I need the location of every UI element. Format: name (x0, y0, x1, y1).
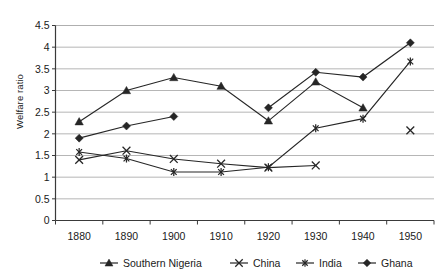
x-tick-label: 1930 (304, 230, 328, 242)
x-tick-label: 1880 (67, 230, 91, 242)
data-point-marker (359, 73, 367, 81)
y-tick-label: 1 (44, 171, 50, 183)
y-tick-label: 4.5 (35, 19, 50, 31)
data-point-marker (75, 134, 83, 142)
y-tick-label: 3 (44, 84, 50, 96)
y-axis-ticks-group: 00.511.522.533.544.5 (35, 19, 56, 226)
data-point-marker (122, 122, 130, 130)
legend-item-india: India (296, 257, 342, 269)
data-point-marker (406, 39, 414, 47)
y-tick-label: 3.5 (35, 63, 50, 75)
y-tick-label: 4 (44, 41, 50, 53)
gridlines-group (56, 26, 435, 199)
x-tick-label: 1910 (209, 230, 233, 242)
y-tick-label: 1.5 (35, 149, 50, 161)
legend-item-ghana: Ghana (358, 257, 413, 269)
y-tick-label: 2.5 (35, 106, 50, 118)
legend-label: China (253, 257, 281, 269)
data-point-marker (359, 104, 367, 111)
data-point-marker (170, 73, 178, 80)
plot-axes (56, 26, 435, 221)
x-tick-label: 1900 (162, 230, 186, 242)
data-point-marker (170, 113, 178, 121)
x-axis-ticks-group: 18801890190019101920193019401950 (56, 221, 435, 242)
legend-item-southern-nigeria: Southern Nigeria (100, 257, 202, 269)
x-tick-label: 1940 (351, 230, 375, 242)
x-tick-label: 1950 (399, 230, 423, 242)
data-point-marker (406, 126, 414, 134)
legend-marker-diamond (363, 259, 371, 267)
legend-label: India (319, 257, 342, 269)
chart-legend: Southern NigeriaChinaIndiaGhana (100, 257, 413, 269)
y-tick-label: 2 (44, 128, 50, 140)
legend-label: Southern Nigeria (123, 257, 202, 269)
legend-item-china: China (230, 257, 281, 269)
series-southern-nigeria (75, 73, 367, 124)
data-point-marker (75, 118, 83, 125)
data-point-marker (407, 57, 413, 65)
data-point-marker (312, 78, 320, 85)
welfare-ratio-line-chart: Welfare ratio 00.511.522.533.544.5 18801… (0, 0, 445, 278)
chart-canvas: 00.511.522.533.544.5 1880189019001910192… (0, 0, 445, 278)
series-china (75, 126, 414, 171)
legend-label: Ghana (381, 257, 413, 269)
y-tick-label: 0 (44, 214, 50, 226)
x-tick-label: 1890 (115, 230, 139, 242)
y-tick-label: 0.5 (35, 193, 50, 205)
x-tick-label: 1920 (257, 230, 281, 242)
